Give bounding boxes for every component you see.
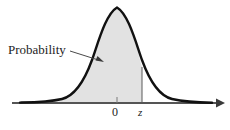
x-axis-arrowhead [216, 99, 225, 108]
origin-axis-label: 0 [112, 106, 118, 118]
probability-annotation-label: Probability [8, 43, 66, 56]
normal-distribution-figure: Probability 0 z [0, 0, 230, 130]
z-axis-label: z [138, 107, 142, 118]
